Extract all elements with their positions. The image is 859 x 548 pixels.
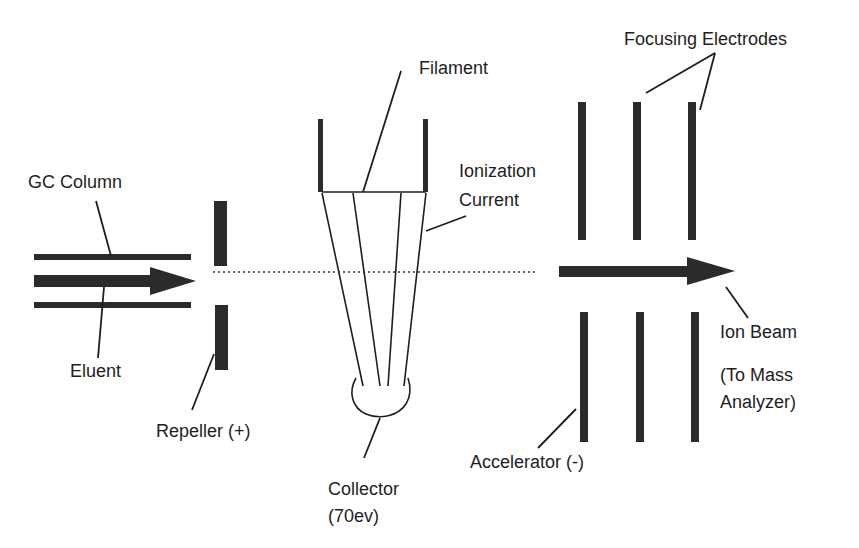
accelerator-upper-plate [578, 102, 586, 240]
ion-beam-leader [726, 287, 748, 318]
ionization-label: Ionization [459, 161, 536, 181]
focusing-electrode-1-upper [633, 102, 641, 240]
ionization-current-paths [322, 193, 426, 386]
focusing-leader-2 [700, 53, 715, 110]
ionization-current-leader [426, 216, 466, 231]
repeller-bottom-plate [215, 305, 228, 370]
repeller-leader [192, 354, 214, 410]
repeller-label: Repeller (+) [156, 421, 251, 441]
filament-assembly [318, 119, 428, 192]
current-label: Current [459, 190, 519, 210]
filament-label: Filament [419, 58, 488, 78]
collector-leader [364, 418, 380, 458]
eluent-leader [98, 287, 104, 358]
accelerator-lower-plate [580, 312, 588, 442]
focusing-leader-1 [646, 53, 715, 93]
focusing-electrodes-label: Focusing Electrodes [624, 29, 787, 49]
repeller-top-plate [214, 201, 227, 266]
eluent-label: Eluent [70, 361, 121, 381]
gc-column-label: GC Column [28, 172, 122, 192]
gc-column-leader [96, 201, 111, 256]
collector-label: Collector [328, 479, 399, 499]
accelerator-label: Accelerator (-) [470, 452, 584, 472]
gc-column-top-wall [34, 254, 191, 260]
ei-source-diagram: GC Column Eluent Repeller (+) Filament I… [0, 0, 859, 548]
eluent-arrow-icon [34, 267, 196, 295]
focusing-electrode-1-lower [636, 312, 644, 442]
accelerator-leader [538, 409, 576, 448]
destination-label-line2: Analyzer) [720, 392, 796, 412]
destination-label-line1: (To Mass [720, 365, 793, 385]
filament-leader [363, 71, 401, 192]
ion-beam-arrow-icon [559, 257, 735, 285]
focusing-electrode-2-upper [688, 102, 696, 240]
collector-cup-icon [352, 378, 410, 417]
focusing-electrode-2-lower [691, 312, 699, 442]
gc-column-bottom-wall [34, 302, 191, 308]
collector-energy-label: (70ev) [328, 506, 379, 526]
ion-beam-label: Ion Beam [720, 322, 797, 342]
